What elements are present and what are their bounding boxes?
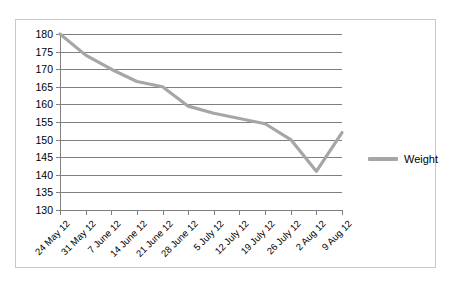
y-tick-label-180: 180 [35,28,53,40]
x-tick-mark-3 [137,210,138,215]
x-tick-mark-8 [265,210,266,215]
x-tick-mark-4 [163,210,164,215]
y-tick-label-165: 165 [35,81,53,93]
series-weight-line [60,34,342,210]
x-tick-mark-10 [316,210,317,215]
y-tick-label-170: 170 [35,63,53,75]
chart-container: 180175170165160155150145140135130 24 May… [15,19,436,268]
x-tick-mark-2 [111,210,112,215]
x-tick-mark-6 [214,210,215,215]
y-tick-label-155: 155 [35,116,53,128]
y-tick-label-175: 175 [35,46,53,58]
legend-swatch-weight [368,157,398,161]
y-tick-label-130: 130 [35,204,53,216]
plot-area: 180175170165160155150145140135130 24 May… [60,34,342,210]
x-tick-mark-11 [342,210,343,215]
gridline-130 [60,210,342,211]
x-tick-mark-5 [188,210,189,215]
y-tick-label-150: 150 [35,134,53,146]
legend-label-weight: Weight [404,153,438,165]
x-tick-mark-1 [86,210,87,215]
y-tick-label-145: 145 [35,151,53,163]
chart-legend: Weight [368,153,438,165]
x-tick-mark-9 [291,210,292,215]
weight-polyline [60,34,342,171]
y-tick-label-160: 160 [35,98,53,110]
y-tick-label-140: 140 [35,169,53,181]
x-tick-mark-7 [239,210,240,215]
x-tick-mark-0 [60,210,61,215]
y-tick-label-135: 135 [35,186,53,198]
